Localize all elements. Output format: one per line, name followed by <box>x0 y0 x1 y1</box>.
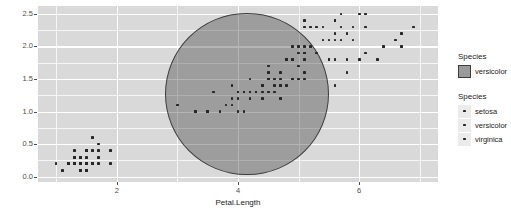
data-point <box>340 26 343 29</box>
legend-point-icon <box>458 105 471 118</box>
data-point <box>334 39 337 42</box>
gridline-major-x <box>117 6 118 182</box>
data-point <box>364 26 367 29</box>
y-axis-ticks: 0.00.51.01.52.02.5 <box>12 0 33 217</box>
scatter-plot-figure: Petal.Width 0.00.51.01.52.02.5 246 Petal… <box>0 0 511 217</box>
data-point <box>85 156 88 159</box>
data-point <box>400 32 403 35</box>
data-point <box>303 19 306 22</box>
data-point <box>352 26 355 29</box>
data-point <box>364 52 367 55</box>
y-tick-label: 2.5 <box>13 10 33 18</box>
y-tick-mark <box>34 177 37 178</box>
y-tick-mark <box>34 79 37 80</box>
data-point <box>303 71 306 74</box>
data-point <box>303 78 306 81</box>
data-point <box>334 32 337 35</box>
data-point <box>109 149 112 152</box>
y-tick-mark <box>34 144 37 145</box>
data-point <box>279 71 282 74</box>
gridline-major-x <box>359 6 360 182</box>
gridline-minor-x <box>56 6 57 182</box>
x-tick-label: 2 <box>107 186 127 195</box>
data-point <box>412 26 415 29</box>
y-tick-label: 0.0 <box>13 173 33 181</box>
legend-point-icon <box>458 133 471 146</box>
data-point <box>297 78 300 81</box>
y-axis-title-container: Petal.Width <box>0 12 12 181</box>
data-point <box>328 58 331 61</box>
legend-colour-title: Species <box>458 92 507 101</box>
data-point <box>376 58 379 61</box>
data-point <box>237 97 240 100</box>
data-point <box>279 97 282 100</box>
data-point <box>91 162 94 165</box>
data-point <box>267 78 270 81</box>
y-tick-label: 0.5 <box>13 140 33 148</box>
data-point <box>291 58 294 61</box>
data-point <box>273 91 276 94</box>
data-point <box>267 65 270 68</box>
data-point <box>400 45 403 48</box>
data-point <box>334 58 337 61</box>
data-point <box>73 149 76 152</box>
data-point <box>279 84 282 87</box>
y-tick-mark <box>34 14 37 15</box>
x-axis-title: Petal.Length <box>38 198 438 207</box>
data-point <box>91 149 94 152</box>
data-point <box>309 45 312 48</box>
data-point <box>261 91 264 94</box>
data-point <box>261 97 264 100</box>
data-point <box>73 156 76 159</box>
data-point <box>73 162 76 165</box>
data-point <box>322 39 325 42</box>
data-point <box>206 110 209 113</box>
data-point <box>334 19 337 22</box>
data-point <box>291 45 294 48</box>
data-point <box>303 26 306 29</box>
data-point <box>309 26 312 29</box>
data-point <box>79 162 82 165</box>
data-point <box>358 58 361 61</box>
legend-item-virginica[interactable]: virginica <box>458 132 507 146</box>
data-point <box>243 110 246 113</box>
x-tick-label: 6 <box>349 186 369 195</box>
data-point <box>97 149 100 152</box>
data-point <box>231 97 234 100</box>
x-tick-mark <box>359 182 360 185</box>
data-point <box>291 78 294 81</box>
x-tick-mark <box>238 182 239 185</box>
data-point <box>346 32 349 35</box>
data-point <box>303 52 306 55</box>
legend-point-icon <box>458 119 471 132</box>
data-point <box>55 162 58 165</box>
data-point <box>267 91 270 94</box>
data-point <box>85 169 88 172</box>
data-point <box>261 84 264 87</box>
data-point <box>194 110 197 113</box>
legend-item-setosa[interactable]: setosa <box>458 104 507 118</box>
gridline-major-y <box>38 177 438 178</box>
plot-panel <box>38 6 438 182</box>
data-point <box>91 136 94 139</box>
data-point <box>322 26 325 29</box>
data-point <box>334 84 337 87</box>
data-point <box>394 39 397 42</box>
legend-item-label: versicolor <box>475 67 507 76</box>
data-point <box>315 52 318 55</box>
data-point <box>303 58 306 61</box>
legend-item-versicolor-fill[interactable]: versicolor <box>458 64 507 78</box>
data-point <box>303 45 306 48</box>
data-point <box>85 149 88 152</box>
data-point <box>382 45 385 48</box>
data-point <box>79 169 82 172</box>
legend-colour: Species setosa versicolor virginica <box>458 92 507 146</box>
y-tick-label: 2.0 <box>13 42 33 50</box>
versicolor-highlight-ellipse <box>165 13 329 176</box>
data-point <box>237 110 240 113</box>
legend-item-versicolor[interactable]: versicolor <box>458 118 507 132</box>
data-point <box>285 84 288 87</box>
x-tick-mark <box>117 182 118 185</box>
data-point <box>85 162 88 165</box>
data-point <box>328 39 331 42</box>
